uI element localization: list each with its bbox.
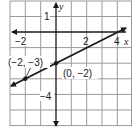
tick-x-2: 2 [83, 36, 89, 47]
point-neg2-neg3 [23, 77, 27, 81]
tick-y-1: 1 [44, 11, 50, 22]
x-axis-label: x [123, 36, 129, 47]
point-label-neg2-neg3: (−2, −3) [8, 57, 43, 68]
tick-x-4: 4 [114, 36, 120, 47]
point-label-0-neg2: (0, −2) [63, 68, 92, 79]
tick-y-neg4: −4 [40, 91, 52, 102]
point-0-neg2 [54, 61, 58, 65]
tick-x-neg2: −2 [15, 36, 27, 47]
coordinate-graph: 1 −2 2 4 x y −4 (−2, −3) (0, −2) [0, 0, 132, 130]
y-axis-label: y [58, 1, 64, 12]
